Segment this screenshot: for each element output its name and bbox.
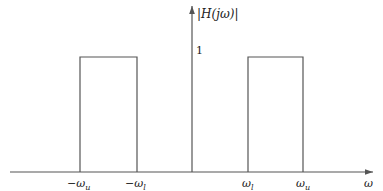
- frequency-response-plot: [0, 0, 383, 191]
- x-label-neg-omega-l: −ωl: [125, 178, 146, 191]
- passband-right: [248, 57, 303, 172]
- x-label-neg-omega-u: −ωu: [67, 178, 90, 191]
- y-tick-one: 1: [196, 45, 203, 56]
- x-label-omega-u: ωu: [296, 178, 310, 191]
- bandpass-filter-diagram: |H(jω)| 1 −ωu −ωl ωl ωu ω: [0, 0, 383, 191]
- passband-left: [80, 57, 137, 172]
- x-axis-label-omega: ω: [364, 178, 373, 189]
- magnitude-label: |H(jω)|: [197, 8, 238, 20]
- x-label-omega-l: ωl: [242, 178, 254, 191]
